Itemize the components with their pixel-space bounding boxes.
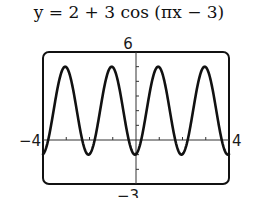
ymin-label: −3 xyxy=(117,187,139,198)
graph-window: 6 −4 4 −3 xyxy=(0,0,254,198)
xmin-label: −4 xyxy=(19,132,41,150)
ymax-label: 6 xyxy=(123,35,133,53)
xmax-label: 4 xyxy=(232,132,242,150)
